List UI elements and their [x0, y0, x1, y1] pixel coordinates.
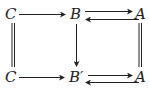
node-c-bottom: C — [5, 70, 16, 85]
node-c-top: C — [5, 7, 16, 22]
node-bprime-bottom: B′ — [69, 70, 83, 85]
node-a-top: A — [135, 7, 146, 22]
node-a-bottom: A — [135, 70, 146, 85]
node-b-top: B — [70, 7, 81, 22]
